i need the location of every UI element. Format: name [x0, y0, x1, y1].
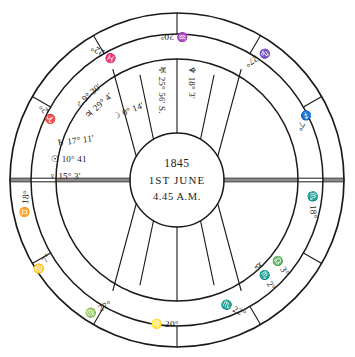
astrology-chart: ♊ 18° ♋ 7° ♍ 27° ♌ 20° ♏ 22° ♎ 3° ♏ 18° …: [0, 0, 355, 357]
band-tick-1: [304, 253, 322, 264]
spoke-11: [218, 70, 241, 157]
spoke-10: [201, 75, 215, 139]
cusp-ic: ♌ 20°: [151, 318, 179, 330]
planet-sun: ☉ 10° 41: [51, 154, 87, 164]
cusp-house-5: ♏ 22°: [218, 297, 248, 320]
chart-canvas: ♊ 18° ♋ 7° ♍ 27° ♌ 20° ♏ 22° ♎ 3° ♏ 18° …: [0, 0, 355, 357]
cusp-mc: ♒ 20°: [160, 31, 188, 43]
planet-neptune: ♆ 18° 3': [187, 66, 197, 99]
birth-year: 1845: [164, 157, 189, 169]
cusp-house-12: ♈ 2°: [36, 102, 58, 128]
spoke-1: [218, 204, 241, 291]
birth-date: 1ST JUNE: [149, 174, 206, 186]
cusp-house-8: ♐ 7°: [293, 108, 314, 134]
spoke-4: [140, 221, 154, 285]
cusp-asc: ♊ 18°: [18, 190, 33, 219]
spoke-2: [201, 221, 215, 285]
cusp-house-11: ♓ 22°: [89, 42, 119, 66]
band-tick-2: [250, 306, 261, 324]
cusp-house-2: ♋ 7°: [31, 251, 54, 277]
spoke-5: [113, 204, 136, 291]
band-tick-10: [250, 35, 261, 53]
birth-time: 4.45 A.M.: [153, 191, 201, 202]
cusp-desc: ♏ 18°: [306, 191, 320, 220]
planet-venus: ♀ 15° 3': [49, 171, 81, 181]
planet-uranus: ♅ 25° 56' S.: [157, 66, 167, 114]
planet-saturn: ♄ 17° 11': [56, 133, 94, 148]
cusp-house-3: ♍ 27°: [84, 298, 114, 321]
band-tick-11: [304, 97, 322, 108]
planet-moon: ☽ 0° 14': [111, 100, 145, 122]
center-birth-data: 1845 1ST JUNE 4.45 A.M.: [149, 157, 206, 203]
